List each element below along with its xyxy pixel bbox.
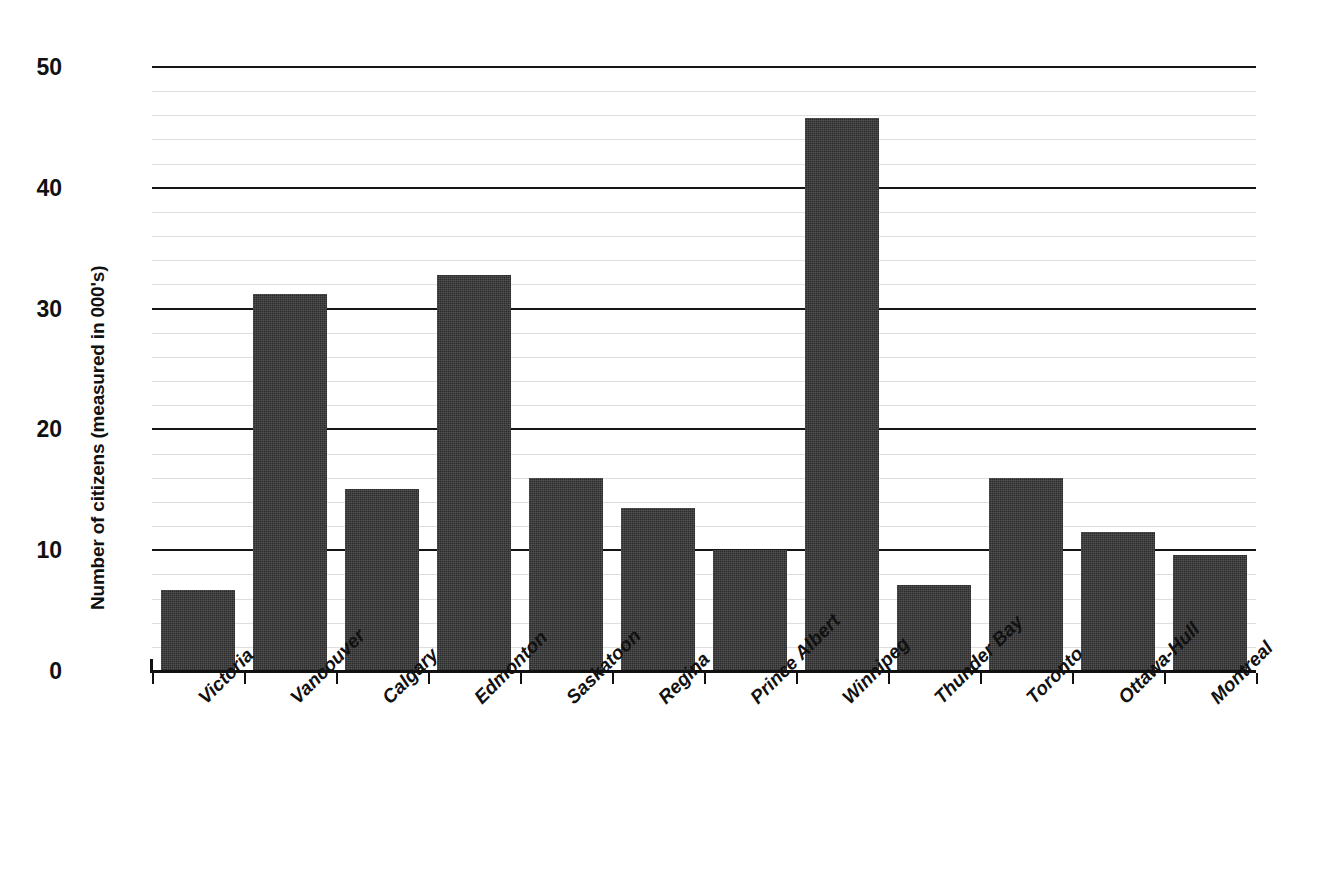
gridline-minor xyxy=(152,284,1256,285)
x-tick-mark xyxy=(244,673,246,684)
x-tick-mark xyxy=(980,673,982,684)
bar[interactable] xyxy=(253,294,327,671)
x-tick-mark xyxy=(428,673,430,684)
y-tick-label: 30 xyxy=(2,295,62,322)
y-tick-label: 40 xyxy=(2,174,62,201)
gridline-minor xyxy=(152,236,1256,237)
chart-page: Number of citizens (measured in 000's) 0… xyxy=(0,0,1324,871)
x-tick-mark xyxy=(888,673,890,684)
bar[interactable] xyxy=(897,585,971,671)
x-tick-mark xyxy=(612,673,614,684)
x-tick-mark xyxy=(520,673,522,684)
gridline-minor xyxy=(152,164,1256,165)
gridline-minor xyxy=(152,91,1256,92)
x-tick-mark xyxy=(336,673,338,684)
bar[interactable] xyxy=(805,118,879,671)
y-tick-label: 50 xyxy=(2,54,62,81)
gridline-major xyxy=(152,187,1256,189)
x-tick-mark xyxy=(1256,673,1258,684)
y-tick-label: 10 xyxy=(2,537,62,564)
gridline-minor xyxy=(152,212,1256,213)
y-tick-label: 0 xyxy=(2,658,62,685)
x-tick-mark xyxy=(796,673,798,684)
bar[interactable] xyxy=(1081,532,1155,671)
bar[interactable] xyxy=(437,275,511,671)
bar[interactable] xyxy=(713,550,787,671)
gridline-minor xyxy=(152,139,1256,140)
x-tick-mark xyxy=(704,673,706,684)
y-axis-title: Number of citizens (measured in 000's) xyxy=(78,0,118,610)
gridline-major xyxy=(152,66,1256,68)
plot-area xyxy=(152,67,1256,671)
gridline-minor xyxy=(152,115,1256,116)
y-tick-label: 20 xyxy=(2,416,62,443)
x-tick-mark xyxy=(152,673,154,684)
bar[interactable] xyxy=(161,590,235,671)
x-tick-mark xyxy=(1072,673,1074,684)
gridline-minor xyxy=(152,260,1256,261)
x-tick-mark xyxy=(1164,673,1166,684)
